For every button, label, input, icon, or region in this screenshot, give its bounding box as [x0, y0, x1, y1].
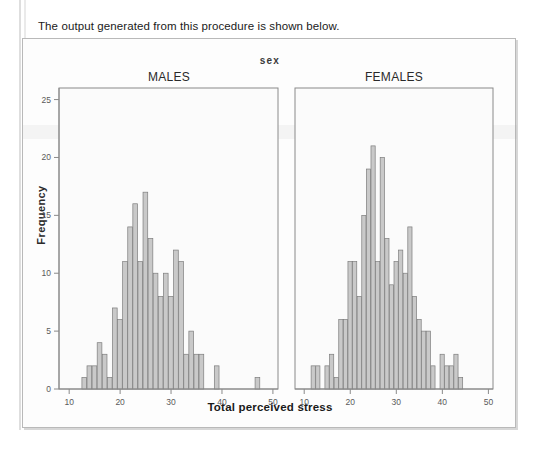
x-tick-label: 50 [484, 397, 494, 407]
histogram-bar [348, 262, 352, 389]
x-tick-label: 10 [64, 397, 74, 407]
histogram-bar [431, 366, 435, 389]
histogram-bar [148, 239, 153, 390]
x-tick-label: 30 [166, 397, 176, 407]
histogram-bar [123, 262, 128, 389]
histogram-bar [408, 227, 412, 389]
histogram-bar [194, 354, 199, 389]
histogram-bar [189, 331, 194, 389]
histogram-bar [334, 377, 338, 389]
histogram-svg: 102030405005101520251020304050 [23, 39, 517, 429]
histogram-bar [403, 273, 407, 389]
x-tick-label: 20 [115, 397, 125, 407]
x-tick-label: 20 [346, 397, 356, 407]
spss-output-box: sex MALES FEMALES Frequency Total percei… [22, 38, 516, 428]
y-tick-label: 20 [42, 152, 52, 162]
histogram-bar [97, 343, 102, 389]
histogram-bar [412, 296, 416, 389]
histogram-bar [422, 331, 426, 389]
histogram-bar [376, 262, 380, 389]
histogram-bar [330, 354, 334, 389]
page-margin-rule-left [19, 0, 21, 430]
histogram-bar [417, 320, 421, 389]
x-tick-label: 40 [217, 397, 227, 407]
histogram-bar [138, 262, 143, 389]
panel-males: 10203040500510152025 [42, 88, 278, 407]
x-tick-label: 40 [438, 397, 448, 407]
histogram-bar [362, 215, 366, 389]
histogram-bar [316, 366, 320, 389]
histogram-bar [394, 262, 398, 389]
y-tick-label: 15 [42, 210, 52, 220]
y-tick-label: 25 [42, 95, 52, 105]
histogram-bar [214, 366, 219, 389]
histogram-bar [112, 308, 117, 389]
histogram-bar [311, 366, 315, 389]
histogram-bar [353, 262, 357, 389]
histogram-bar [458, 377, 462, 389]
histogram-bar [158, 296, 163, 389]
histogram-bar [118, 320, 123, 389]
histogram-bar [102, 354, 107, 389]
histogram-bar [389, 285, 393, 389]
histogram-bar [133, 204, 138, 389]
histogram-bar [445, 366, 449, 389]
x-tick-label: 50 [268, 397, 278, 407]
histogram-bar [454, 354, 458, 389]
histogram-bar [366, 169, 370, 389]
histogram-bar [325, 366, 329, 389]
y-tick-label: 5 [46, 326, 51, 336]
histogram-bar [343, 320, 347, 389]
histogram-bar [199, 354, 204, 389]
histogram-bar [255, 377, 260, 389]
histogram-bar [143, 192, 148, 389]
histogram-bar [153, 273, 158, 389]
histogram-bar [87, 366, 92, 389]
histogram-bar [339, 320, 343, 389]
y-tick-label: 0 [46, 384, 51, 394]
histogram-bar [449, 366, 453, 389]
histogram-bar [92, 366, 97, 389]
histogram-bar [169, 296, 174, 389]
histogram-bar [82, 377, 87, 389]
panel-females: 1020304050 [295, 88, 493, 407]
histogram-bar [371, 146, 375, 389]
x-tick-label: 30 [392, 397, 402, 407]
histogram-bar [128, 227, 133, 389]
x-tick-label: 10 [299, 397, 309, 407]
histogram-bar [357, 296, 361, 389]
histogram-figure: sex MALES FEMALES Frequency Total percei… [23, 39, 517, 429]
histogram-bar [179, 262, 184, 389]
y-tick-label: 10 [42, 268, 52, 278]
histogram-bar [107, 377, 112, 389]
histogram-bar [440, 354, 444, 389]
histogram-bar [184, 354, 189, 389]
intro-paragraph: The output generated from this procedure… [38, 20, 340, 32]
histogram-bar [385, 239, 389, 390]
histogram-bar [399, 250, 403, 389]
histogram-bar [380, 157, 384, 389]
histogram-bar [174, 250, 179, 389]
histogram-bar [426, 331, 430, 389]
histogram-bar [163, 273, 168, 389]
screenshot-page: The output generated from this procedure… [0, 0, 538, 459]
